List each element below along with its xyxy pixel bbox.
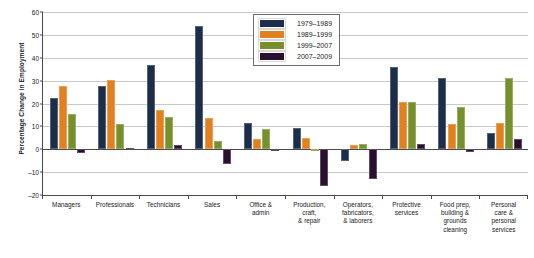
group-separator <box>237 12 238 195</box>
bar-slot <box>174 12 182 195</box>
bar-slot <box>98 12 106 195</box>
bar <box>223 149 231 164</box>
x-tick-mark <box>527 195 528 199</box>
group-separator <box>383 12 384 195</box>
bar <box>369 149 377 179</box>
bar <box>448 124 456 149</box>
x-category-label: Professionals <box>91 201 140 209</box>
bar <box>174 145 182 150</box>
bar <box>68 114 76 149</box>
legend-swatch <box>259 41 285 50</box>
bar <box>457 107 465 149</box>
bar-slot <box>505 12 513 195</box>
bar <box>399 102 407 149</box>
x-tick-mark <box>236 195 237 199</box>
bar-slot <box>107 12 115 195</box>
bar-group <box>140 12 189 195</box>
x-category-label: Protectiveservices <box>382 201 431 217</box>
bar-slot <box>514 12 522 195</box>
x-category-label: Technicians <box>139 201 188 209</box>
bar-slot <box>390 12 398 195</box>
bar-slot <box>77 12 85 195</box>
bar <box>359 144 367 150</box>
bar <box>514 139 522 149</box>
bar <box>390 67 398 149</box>
bar-group <box>383 12 432 195</box>
bar-slot <box>359 12 367 195</box>
bar-slot <box>417 12 425 195</box>
bar-slot <box>68 12 76 195</box>
bar <box>505 78 513 149</box>
bar-slot <box>126 12 134 195</box>
bar-slot <box>487 12 495 195</box>
x-category-label: Production,craft,& repair <box>285 201 334 226</box>
y-tick-label: 30 <box>32 77 39 84</box>
legend-swatch <box>259 52 285 61</box>
bar-slot <box>195 12 203 195</box>
bar <box>205 118 213 149</box>
group-separator <box>92 12 93 195</box>
bar <box>253 139 261 149</box>
y-tick-label: –20 <box>28 192 39 199</box>
x-tick-mark <box>42 195 43 199</box>
bar-slot <box>50 12 58 195</box>
bar-slot <box>448 12 456 195</box>
bar-slot <box>147 12 155 195</box>
legend-item: 1999–2007 <box>259 40 332 51</box>
bar-slot <box>399 12 407 195</box>
bar-slot <box>369 12 377 195</box>
group-separator <box>189 12 190 195</box>
x-category-label: Office &admin <box>236 201 285 217</box>
x-tick-mark <box>188 195 189 199</box>
legend-label: 2007–2009 <box>297 53 332 60</box>
bar-slot <box>341 12 349 195</box>
legend-item: 2007–2009 <box>259 51 332 62</box>
bar-slot <box>438 12 446 195</box>
bar <box>165 117 173 149</box>
bar <box>156 110 164 149</box>
bar-chart: Percentage Change in Employment 60504030… <box>0 0 534 258</box>
bar-slot <box>244 12 252 195</box>
bar-slot <box>466 12 474 195</box>
bar-slot <box>116 12 124 195</box>
x-axis: ManagersProfessionalsTechniciansSalesOff… <box>42 195 528 257</box>
x-category-label: Operators,fabricators,& laborers <box>334 201 383 226</box>
bar <box>417 144 425 150</box>
bar-group <box>92 12 141 195</box>
bar-slot <box>59 12 67 195</box>
bar-slot <box>223 12 231 195</box>
legend-label: 1989–1999 <box>297 31 332 38</box>
bar <box>50 98 58 149</box>
legend-swatch <box>259 30 285 39</box>
bar <box>302 138 310 149</box>
bar <box>496 123 504 149</box>
bar <box>244 123 252 149</box>
bar <box>59 86 67 149</box>
bar <box>214 141 222 149</box>
x-tick-mark <box>382 195 383 199</box>
bar-slot <box>214 12 222 195</box>
bar <box>293 128 301 150</box>
bar <box>320 149 328 186</box>
bar <box>195 26 203 150</box>
bar <box>107 80 115 149</box>
bar <box>262 129 270 150</box>
group-separator <box>140 12 141 195</box>
legend-label: 1979–1989 <box>297 20 332 27</box>
bar <box>408 102 416 149</box>
bar <box>341 149 349 160</box>
bar <box>271 149 279 151</box>
bar-slot <box>165 12 173 195</box>
group-separator <box>432 12 433 195</box>
legend-item: 1989–1999 <box>259 29 332 40</box>
bar <box>147 65 155 150</box>
y-axis-title: Percentage Change in Employment <box>18 19 25 179</box>
x-tick-mark <box>285 195 286 199</box>
bar-slot <box>205 12 213 195</box>
x-tick-mark <box>431 195 432 199</box>
bar-group <box>189 12 238 195</box>
x-tick-mark <box>91 195 92 199</box>
bar <box>77 149 85 152</box>
bar <box>350 145 358 150</box>
y-tick-label: 50 <box>32 31 39 38</box>
